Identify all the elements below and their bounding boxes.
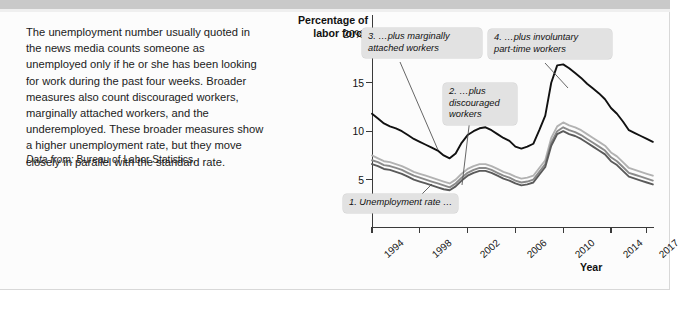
- y-tick-label-15: 15: [330, 77, 364, 88]
- caption-block: The unemployment number usually quoted i…: [26, 24, 264, 170]
- x-tick-label-2014: 2014: [621, 237, 645, 260]
- source-note: Data from: Bureau of Labor Statistics.: [26, 153, 276, 167]
- x-tick-label-1994: 1994: [382, 237, 406, 260]
- caption-text: The unemployment number usually quoted i…: [26, 24, 264, 170]
- source-text: Bureau of Labor Statistics.: [74, 154, 196, 165]
- x-tick-1994: [371, 227, 372, 233]
- y-axis-title-line-0: Percentage of: [262, 14, 368, 27]
- y-tick-label-10: 10: [330, 126, 364, 137]
- y-tick-label-20%: 20%: [330, 29, 364, 40]
- x-tick-label-2006: 2006: [525, 237, 549, 260]
- x-tick-label-1998: 1998: [429, 237, 453, 260]
- x-tick-label-2002: 2002: [477, 237, 501, 260]
- figure-root: The unemployment number usually quoted i…: [0, 0, 682, 309]
- callout-unemployment-rate: 1. Unemployment rate …: [343, 194, 458, 213]
- x-tick-2010: [563, 227, 564, 233]
- callout-involuntary-part-time: 4. …plus involuntary part-time workers: [488, 29, 612, 59]
- x-tick-2017: [646, 227, 647, 233]
- x-tick-2014: [610, 227, 611, 233]
- x-tick-1998: [419, 227, 420, 233]
- x-tick-label-2010: 2010: [573, 237, 597, 260]
- callout-marginally-attached: 3. …plus marginally attached workers: [362, 28, 482, 58]
- series-line-2: [372, 127, 653, 187]
- y-tick-5: [366, 179, 372, 180]
- source-prefix: Data from:: [26, 154, 74, 165]
- y-tick-label-5: 5: [330, 174, 364, 185]
- callout-discouraged-workers: 2. …plus discouraged workers: [443, 83, 517, 125]
- x-tick-2006: [515, 227, 516, 233]
- y-tick-15: [366, 82, 372, 83]
- x-axis-title: Year: [580, 261, 602, 273]
- top-border-strip: [0, 0, 670, 9]
- series-line-1: [372, 122, 653, 183]
- y-tick-10: [366, 131, 372, 132]
- x-tick-2002: [467, 227, 468, 233]
